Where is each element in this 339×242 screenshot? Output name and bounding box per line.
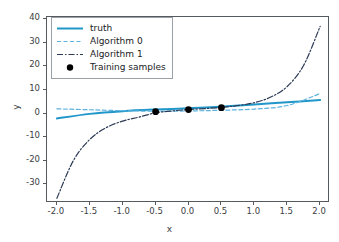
x-tick-label: 2.0 [304, 207, 334, 216]
x-tick-label: -1.0 [107, 207, 137, 216]
training-sample-point [218, 104, 225, 111]
x-tick-mark [122, 202, 123, 205]
legend-label: truth [90, 23, 112, 34]
y-tick-label: -30 [14, 178, 40, 187]
x-tick-label: -1.5 [74, 207, 104, 216]
x-tick-label: 0.5 [205, 207, 235, 216]
legend-key-icon [56, 62, 84, 73]
x-tick-mark [155, 202, 156, 205]
legend-label: Training samples [90, 62, 166, 73]
x-tick-label: -2.0 [41, 207, 71, 216]
x-tick-mark [220, 202, 221, 205]
legend-item[interactable]: truth [56, 22, 166, 35]
x-tick-mark [253, 202, 254, 205]
y-tick-label: 30 [14, 37, 40, 46]
y-tick-label: 20 [14, 60, 40, 69]
y-tick-label: -20 [14, 155, 40, 164]
legend-item[interactable]: Algorithm 1 [56, 48, 166, 61]
x-tick-label: -0.5 [140, 207, 170, 216]
x-tick-mark [188, 202, 189, 205]
x-tick-label: 1.0 [238, 207, 268, 216]
x-tick-mark [286, 202, 287, 205]
legend-key-icon [56, 36, 84, 47]
x-tick-label: 1.5 [271, 207, 301, 216]
x-tick-mark [89, 202, 90, 205]
legend-label: Algorithm 1 [90, 49, 143, 60]
training-sample-point [152, 108, 159, 115]
legend-label: Algorithm 0 [90, 36, 143, 47]
legend: truthAlgorithm 0Algorithm 1Training samp… [51, 17, 173, 79]
legend-item[interactable]: Training samples [56, 61, 166, 74]
training-sample-point [185, 106, 192, 113]
legend-item[interactable]: Algorithm 0 [56, 35, 166, 48]
x-tick-mark [56, 202, 57, 205]
x-tick-mark [319, 202, 320, 205]
figure: 403020100-10-20-30 -2.0-1.5-1.0-0.50.00.… [0, 0, 339, 242]
y-tick-label: -10 [14, 131, 40, 140]
legend-key-icon [56, 23, 84, 34]
y-axis-label: y [11, 87, 21, 127]
x-axis-label: x [0, 224, 339, 234]
x-tick-label: 0.0 [173, 207, 203, 216]
legend-key-icon [56, 49, 84, 60]
y-tick-label: 40 [14, 13, 40, 22]
